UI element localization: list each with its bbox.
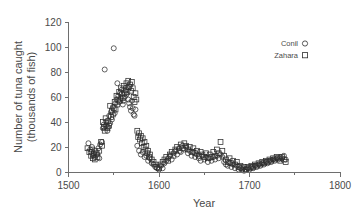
plot-area xyxy=(85,46,288,174)
y-axis: 020406080100120 xyxy=(45,17,69,178)
series-markers-zahara xyxy=(85,78,288,172)
x-axis: 1500160017001800 xyxy=(57,172,351,191)
y-tick-label: 40 xyxy=(50,117,62,128)
y-tick-label: 120 xyxy=(45,17,62,28)
data-point-circle xyxy=(132,113,137,118)
y-axis-title-line1: Number of tuna caught xyxy=(12,41,24,153)
chart-canvas: 020406080100120 1500160017001800 Number … xyxy=(0,0,359,222)
data-point-circle xyxy=(135,143,140,148)
data-point-circle xyxy=(102,67,107,72)
y-axis-title-line2: (thousands of fish) xyxy=(25,52,37,143)
legend-label-conil: Conil xyxy=(281,39,298,48)
y-tick-label: 100 xyxy=(45,42,62,53)
tuna-catch-scatter-chart: 020406080100120 1500160017001800 Number … xyxy=(0,0,359,222)
data-point-circle xyxy=(115,81,120,86)
legend-circle-icon xyxy=(302,41,307,46)
legend-square-icon xyxy=(302,53,307,58)
x-tick-label: 1800 xyxy=(329,180,352,191)
x-axis-title: Year xyxy=(193,197,216,209)
y-axis-title: Number of tuna caught (thousands of fish… xyxy=(12,41,37,153)
chart-legend: Conil Zahara xyxy=(274,39,307,60)
y-tick-label: 20 xyxy=(50,142,62,153)
y-tick-label: 80 xyxy=(50,67,62,78)
x-tick-label: 1600 xyxy=(148,180,171,191)
y-tick-label: 0 xyxy=(56,167,62,178)
data-point-square xyxy=(218,140,223,145)
x-tick-label: 1500 xyxy=(57,180,80,191)
y-axis-ticks: 020406080100120 xyxy=(45,17,69,178)
y-tick-label: 60 xyxy=(50,92,62,103)
x-tick-label: 1700 xyxy=(238,180,261,191)
data-point-circle xyxy=(111,46,116,51)
x-axis-ticks: 1500160017001800 xyxy=(57,172,351,191)
legend-label-zahara: Zahara xyxy=(274,51,299,60)
